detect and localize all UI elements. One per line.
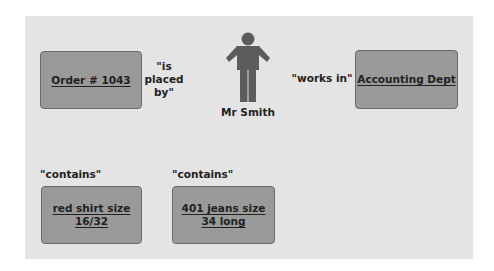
order-entity: Order # 1043 xyxy=(40,51,142,109)
shirt-entity: red shirt size 16/32 xyxy=(41,186,142,244)
department-entity: Accounting Dept xyxy=(355,50,458,109)
relationship-placed-by: "is placed by" xyxy=(143,60,185,99)
jeans-label-line1: 401 jeans size xyxy=(182,202,266,215)
order-label: Order # 1043 xyxy=(51,74,130,87)
relationship-works-in: "works in" xyxy=(290,72,354,85)
person-icon xyxy=(225,31,271,103)
relationship-contains-1: "contains" xyxy=(40,168,98,181)
shirt-label-line2: 16/32 xyxy=(75,215,108,228)
jeans-entity: 401 jeans size 34 long xyxy=(172,186,275,244)
department-label: Accounting Dept xyxy=(357,73,455,86)
person-label: Mr Smith xyxy=(218,106,278,118)
relationship-contains-2: "contains" xyxy=(172,168,230,181)
shirt-label-line1: red shirt size xyxy=(53,202,131,215)
jeans-label-line2: 34 long xyxy=(201,215,245,228)
